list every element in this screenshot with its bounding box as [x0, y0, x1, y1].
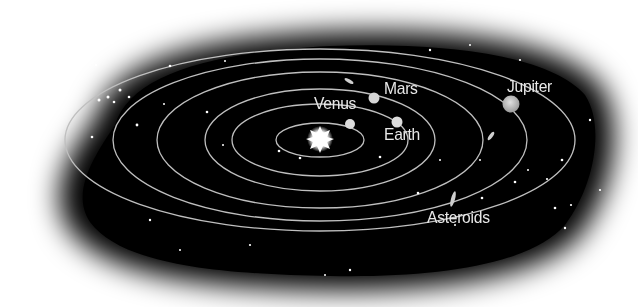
- space-illustration: [0, 0, 638, 307]
- planet-mars: [369, 93, 380, 104]
- solar-system-diagram: Venus Mars Earth Jupiter Asteroids: [0, 0, 638, 307]
- planet-venus: [345, 119, 355, 129]
- label-asteroids: Asteroids: [427, 208, 490, 228]
- label-jupiter: Jupiter: [507, 77, 552, 97]
- label-mars: Mars: [384, 79, 418, 99]
- planet-jupiter: [503, 96, 520, 113]
- label-earth: Earth: [384, 125, 420, 145]
- label-venus: Venus: [314, 94, 356, 114]
